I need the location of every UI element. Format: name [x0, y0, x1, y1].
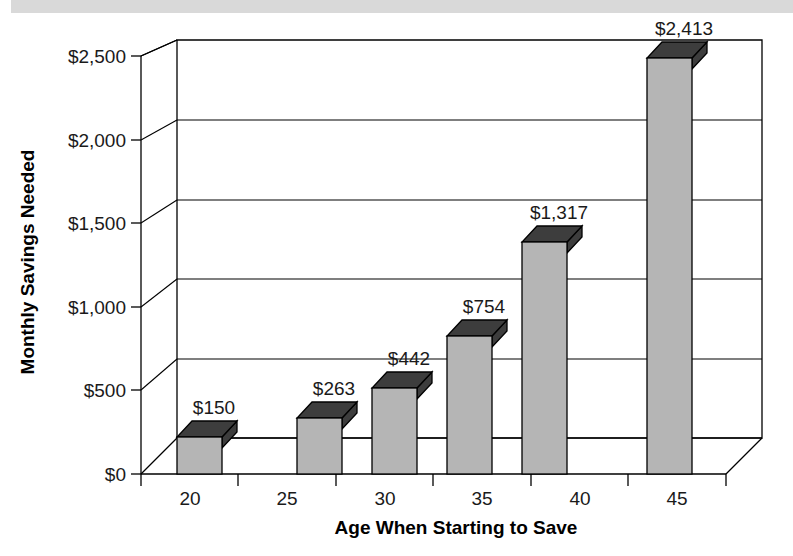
gridline-diagonal-500: [141, 359, 177, 390]
y-tick-label-500: $500: [84, 380, 126, 401]
bar-age-20[interactable]: [177, 421, 237, 474]
data-label-age-20: $150: [193, 397, 235, 418]
gridline-diagonal-1500: [141, 200, 177, 223]
bar-age-30[interactable]: [372, 372, 432, 474]
bar-age-45-front: [647, 58, 692, 474]
x-tick-label-25: 25: [276, 488, 297, 509]
y-tick-label-1000: $1,000: [68, 297, 126, 318]
x-tick-label-45: 45: [666, 488, 687, 509]
x-tick-labels: 20 25 30 35 40 45: [179, 488, 687, 509]
bar-age-40-front: [522, 242, 567, 474]
bar-age-35-front: [447, 336, 492, 474]
x-tick-label-35: 35: [471, 488, 492, 509]
three-d-bar-chart: Monthly Savings Needed Age When Starting…: [0, 0, 793, 556]
gridline-diagonal-2000: [141, 120, 177, 140]
floor-left-diagonal: [141, 438, 177, 474]
y-tick-label-2000: $2,000: [68, 130, 126, 151]
bar-age-20-front: [177, 437, 222, 474]
y-tick-label-2500: $2,500: [68, 46, 126, 67]
y-tick-marks: [131, 56, 141, 474]
bar-age-30-front: [372, 388, 417, 474]
bar-age-25-front: [297, 418, 342, 474]
x-tick-marks: [141, 474, 726, 486]
data-label-age-25: $263: [313, 378, 355, 399]
data-label-age-35: $754: [463, 296, 506, 317]
gridline-diagonal-1000: [141, 279, 177, 307]
y-axis-title: Monthly Savings Needed: [17, 150, 38, 375]
x-tick-label-40: 40: [569, 488, 590, 509]
floor-right-diagonal: [726, 438, 762, 474]
y-tick-label-1500: $1,500: [68, 213, 126, 234]
data-label-age-30: $442: [388, 348, 430, 369]
bars-group: [177, 42, 707, 474]
x-tick-label-20: 20: [179, 488, 200, 509]
bar-age-35[interactable]: [447, 320, 507, 474]
y-tick-label-0: $0: [105, 464, 126, 485]
data-label-age-45: $2,413: [655, 18, 713, 39]
bar-age-45[interactable]: [647, 42, 707, 474]
y-tick-labels: $2,500 $2,000 $1,500 $1,000 $500 $0: [68, 46, 126, 485]
bar-age-40[interactable]: [522, 226, 582, 474]
x-axis-title: Age When Starting to Save: [335, 517, 578, 538]
x-tick-label-30: 30: [374, 488, 395, 509]
data-label-age-40: $1,317: [530, 202, 588, 223]
chart-page: Monthly Savings Needed Age When Starting…: [0, 0, 793, 556]
gridline-diagonal-2500: [141, 40, 177, 56]
